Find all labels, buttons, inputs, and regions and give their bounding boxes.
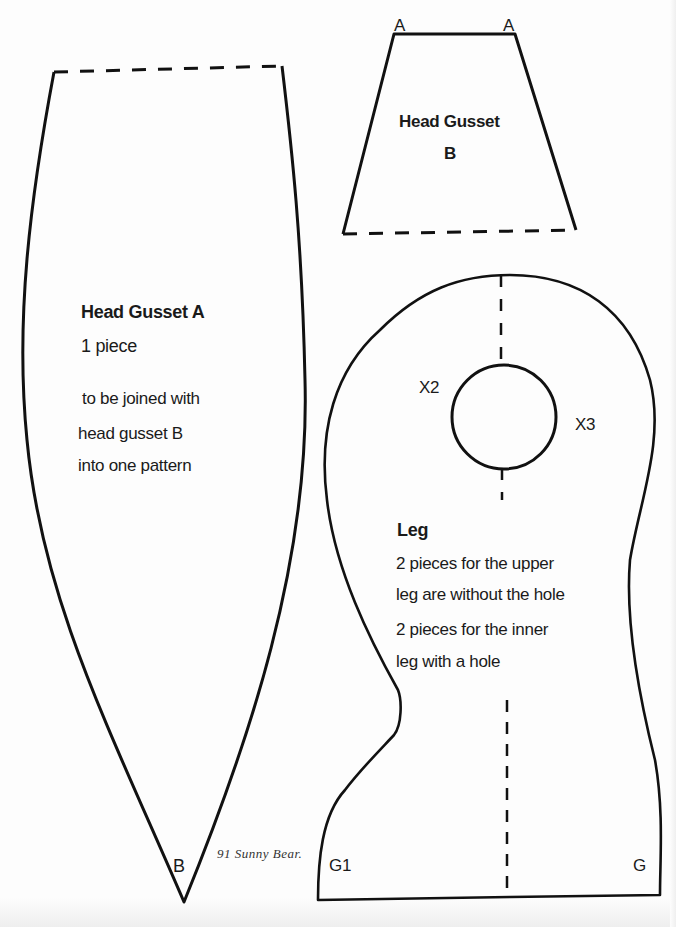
head-gusset-a-note-line1: to be joined with — [82, 389, 200, 409]
leg-hole — [452, 365, 556, 469]
head-gusset-a-quantity: 1 piece — [81, 336, 137, 357]
leg-mark-x2: X2 — [419, 378, 439, 398]
head-gusset-b-corner-left: A — [394, 16, 405, 36]
head-gusset-a-point-label: B — [173, 856, 185, 877]
head-gusset-b-outline — [343, 34, 576, 234]
head-gusset-b-piece — [343, 34, 576, 234]
head-gusset-a-outline — [23, 66, 306, 902]
head-gusset-a-fold-line — [54, 66, 282, 72]
head-gusset-b-title: Head Gusset — [399, 112, 500, 132]
head-gusset-a-piece — [23, 66, 306, 902]
head-gusset-a-note-line2: head gusset B — [78, 424, 183, 444]
leg-note-line3: 2 pieces for the inner — [396, 620, 548, 640]
head-gusset-a-title: Head Gusset A — [81, 302, 204, 323]
leg-note-line4: leg with a hole — [396, 652, 500, 672]
head-gusset-b-subtitle: B — [444, 144, 456, 164]
head-gusset-b-corner-right: A — [503, 16, 514, 36]
leg-note-line2: leg are without the hole — [396, 585, 565, 605]
leg-corner-g1: G1 — [329, 856, 351, 876]
head-gusset-b-fold-line — [343, 230, 576, 234]
leg-corner-g: G — [633, 856, 646, 876]
leg-note-line1: 2 pieces for the upper — [396, 554, 554, 574]
leg-title: Leg — [397, 520, 428, 541]
page-caption: 91 Sunny Bear. — [217, 846, 302, 862]
head-gusset-a-note-line3: into one pattern — [78, 456, 191, 476]
leg-mark-x3: X3 — [575, 415, 595, 435]
